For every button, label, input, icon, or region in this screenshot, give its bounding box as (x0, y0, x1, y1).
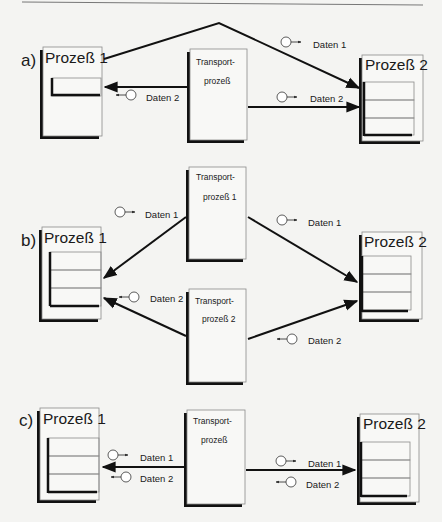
panel-b: b) Prozeß 1 Transport- prozeß 1 Transpor… (21, 167, 427, 385)
message-token: Daten 2 (277, 334, 341, 346)
process-2-box: Prozeß 2 (359, 55, 428, 144)
process-1-box: Prozeß 1 (40, 47, 108, 139)
transport-label-line2: prozeß 2 (202, 314, 236, 324)
panel-a: a) Prozeß 1 Transport- prozeß Prozeß 2 (21, 23, 428, 144)
process-title: Prozeß 1 (43, 410, 106, 427)
process-title: Prozeß 2 (365, 56, 428, 73)
process-1-box: Prozeß 1 (37, 408, 106, 503)
process-title: Prozeß 1 (45, 49, 108, 66)
svg-text:Daten 1: Daten 1 (145, 209, 178, 220)
transport-label-line1: Transport- (193, 416, 232, 426)
transport-label-line1: Transport- (196, 57, 235, 67)
message-token: Daten 2 (277, 92, 343, 104)
svg-text:Daten 1: Daten 1 (308, 217, 341, 228)
message-token: Daten 2 (116, 90, 179, 103)
transport-label-line1: Transport- (195, 296, 234, 306)
message-token: Daten 2 (111, 472, 173, 484)
message-token: Daten 1 (115, 207, 178, 220)
message-token: Daten 1 (277, 215, 341, 228)
transport-process-box: Transport- prozeß (184, 410, 245, 507)
transport-process-box: Transport- prozeß (187, 49, 247, 143)
svg-text:Daten 2: Daten 2 (308, 335, 341, 346)
link-arrow-t2-to-process-2 (248, 301, 357, 339)
process-2-box: Prozeß 2 (359, 232, 427, 322)
process-2-box: Prozeß 2 (357, 414, 426, 505)
transport-label-line1: Transport- (196, 172, 235, 182)
panel-label: a) (21, 51, 36, 70)
svg-text:Daten 2: Daten 2 (310, 93, 343, 104)
header-rule (22, 2, 423, 5)
message-token: Daten 2 (276, 477, 339, 490)
transport-label-line2: prozeß (204, 76, 230, 86)
message-token: Daten 1 (281, 37, 346, 50)
svg-text:Daten 2: Daten 2 (150, 293, 183, 304)
transport-process-1-box: Transport- prozeß 1 (186, 167, 246, 262)
link-arrow-t1-to-process-1 (104, 217, 186, 278)
message-token: Daten 1 (108, 450, 173, 463)
message-token: Daten 1 (276, 456, 341, 469)
process-title: Prozeß 1 (44, 229, 107, 246)
process-1-box: Prozeß 1 (39, 227, 107, 322)
svg-text:Daten 2: Daten 2 (146, 92, 179, 103)
panel-label: c) (19, 411, 33, 430)
svg-text:Daten 1: Daten 1 (308, 458, 341, 469)
svg-text:Daten 1: Daten 1 (140, 452, 173, 463)
transport-label-line2: prozeß (201, 435, 227, 445)
transport-label-line2: prozeß 1 (203, 192, 237, 202)
process-title: Prozeß 2 (363, 415, 426, 432)
diagram-canvas: a) Prozeß 1 Transport- prozeß Prozeß 2 (0, 0, 442, 522)
panel-c: c) Prozeß 1 Transport- prozeß Prozeß 2 (19, 408, 426, 507)
message-token: Daten 2 (119, 292, 183, 304)
svg-text:Daten 1: Daten 1 (313, 39, 346, 50)
panel-label: b) (21, 231, 36, 250)
process-title: Prozeß 2 (364, 233, 427, 250)
svg-text:Daten 2: Daten 2 (306, 479, 339, 490)
svg-text:Daten 2: Daten 2 (140, 473, 173, 484)
transport-process-2-box: Transport- prozeß 2 (186, 289, 246, 385)
